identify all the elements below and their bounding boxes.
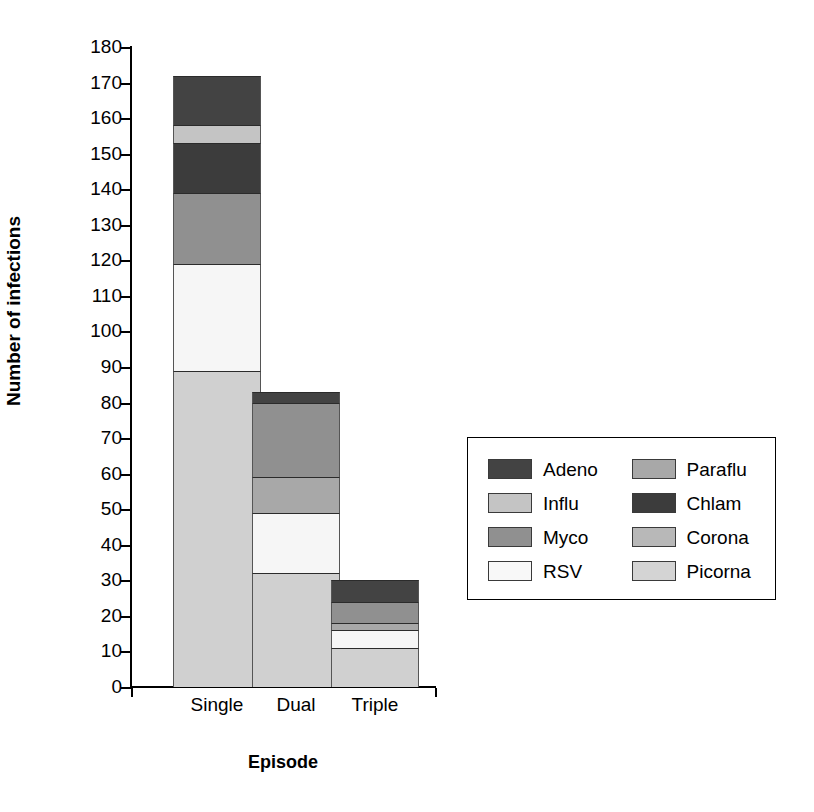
y-tick-label: 60 — [101, 464, 122, 483]
bar-triple[interactable] — [331, 580, 419, 687]
y-axis-tick — [121, 189, 131, 191]
legend-label-chlam: Chlam — [687, 494, 742, 513]
bar-segment-paraflu[interactable] — [252, 477, 340, 513]
y-tick-label: 40 — [101, 535, 122, 554]
legend-label-myco: Myco — [543, 528, 588, 547]
bar-segment-picorna[interactable] — [173, 371, 261, 687]
bar-segment-influ[interactable] — [173, 125, 261, 143]
y-tick-label: 80 — [101, 393, 122, 412]
bar-segment-adeno[interactable] — [252, 392, 340, 403]
y-tick-label: 20 — [101, 606, 122, 625]
y-tick-label: 50 — [101, 499, 122, 518]
bar-dual[interactable] — [252, 392, 340, 687]
plot-area — [131, 47, 435, 687]
y-axis-tick — [121, 83, 131, 85]
y-axis-tick-labels: 1801701601501401301201101009080706050403… — [0, 0, 122, 812]
y-axis-tick — [121, 296, 131, 298]
y-axis-tick — [121, 331, 131, 333]
legend-item-corona[interactable]: Corona — [632, 520, 776, 554]
legend-swatch-picorna — [632, 561, 676, 581]
y-tick-label: 10 — [101, 641, 122, 660]
legend: AdenoParafluInfluChlamMycoCoronaRSVPicor… — [467, 437, 776, 600]
stacked-bar-chart: Number of infections 1801701601501401301… — [0, 0, 814, 812]
y-tick-label: 110 — [92, 286, 122, 305]
legend-item-rsv[interactable]: RSV — [488, 554, 632, 588]
bar-segment-rsv[interactable] — [173, 264, 261, 371]
y-axis-tick — [121, 474, 131, 476]
legend-swatch-paraflu — [632, 459, 676, 479]
y-tick-label: 90 — [101, 357, 122, 376]
x-tick-label-triple: Triple — [315, 694, 435, 716]
y-tick-label: 30 — [101, 570, 122, 589]
legend-swatch-influ — [488, 493, 532, 513]
bar-segment-myco[interactable] — [331, 602, 419, 623]
y-tick-label: 130 — [90, 215, 122, 234]
y-axis-tick — [121, 687, 131, 689]
y-tick-label: 150 — [90, 144, 122, 163]
legend-grid: AdenoParafluInfluChlamMycoCoronaRSVPicor… — [468, 452, 775, 588]
bar-segment-adeno[interactable] — [173, 76, 261, 126]
y-tick-label: 70 — [101, 428, 122, 447]
y-axis-tick — [121, 154, 131, 156]
legend-label-picorna: Picorna — [687, 562, 751, 581]
y-axis-tick — [121, 651, 131, 653]
legend-item-myco[interactable]: Myco — [488, 520, 632, 554]
legend-swatch-chlam — [632, 493, 676, 513]
bar-segment-rsv[interactable] — [331, 630, 419, 648]
legend-item-influ[interactable]: Influ — [488, 486, 632, 520]
y-tick-label: 140 — [90, 179, 122, 198]
y-tick-label: 120 — [90, 250, 122, 269]
legend-item-adeno[interactable]: Adeno — [488, 452, 632, 486]
y-axis-tick — [121, 367, 131, 369]
bar-segment-adeno[interactable] — [331, 580, 419, 601]
bar-single[interactable] — [173, 76, 261, 688]
y-axis-tick — [121, 616, 131, 618]
y-tick-label: 160 — [90, 108, 122, 127]
y-axis-tick — [121, 225, 131, 227]
y-axis-tick — [121, 118, 131, 120]
y-tick-label: 170 — [90, 73, 122, 92]
legend-label-corona: Corona — [687, 528, 749, 547]
x-axis-tick — [131, 688, 133, 697]
legend-label-rsv: RSV — [543, 562, 582, 581]
x-axis-tick — [435, 688, 437, 697]
y-axis-tick — [121, 403, 131, 405]
y-tick-label: 180 — [90, 37, 122, 56]
bar-segment-paraflu[interactable] — [331, 623, 419, 630]
legend-label-influ: Influ — [543, 494, 579, 513]
y-axis-tick — [121, 580, 131, 582]
legend-label-adeno: Adeno — [543, 460, 598, 479]
bar-segment-myco[interactable] — [173, 193, 261, 264]
y-tick-label: 100 — [90, 321, 122, 340]
bar-segment-myco[interactable] — [252, 403, 340, 478]
bar-segment-rsv[interactable] — [252, 513, 340, 573]
legend-swatch-adeno — [488, 459, 532, 479]
y-axis-tick — [121, 47, 131, 49]
legend-item-paraflu[interactable]: Paraflu — [632, 452, 776, 486]
legend-item-chlam[interactable]: Chlam — [632, 486, 776, 520]
bar-segment-picorna[interactable] — [331, 648, 419, 687]
legend-swatch-corona — [632, 527, 676, 547]
x-axis-title: Episode — [131, 752, 435, 773]
y-axis-tick — [121, 438, 131, 440]
legend-swatch-rsv — [488, 561, 532, 581]
bar-segment-picorna[interactable] — [252, 573, 340, 687]
y-axis-tick — [121, 509, 131, 511]
legend-label-paraflu: Paraflu — [687, 460, 747, 479]
y-axis-tick — [121, 260, 131, 262]
legend-item-picorna[interactable]: Picorna — [632, 554, 776, 588]
y-axis-tick — [121, 545, 131, 547]
bar-segment-chlam[interactable] — [173, 143, 261, 193]
legend-swatch-myco — [488, 527, 532, 547]
